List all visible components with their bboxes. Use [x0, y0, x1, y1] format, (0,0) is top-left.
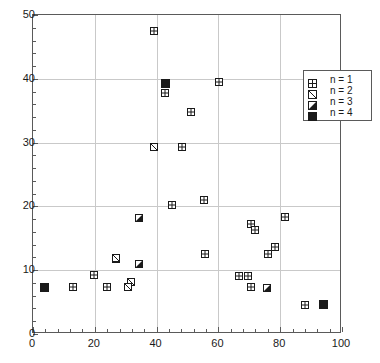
y-tick-label: 40: [0, 73, 35, 84]
y-tick-minor: [33, 257, 36, 258]
y-tick-label: 20: [0, 200, 35, 211]
data-point-square-half: [135, 260, 143, 268]
x-tick-label: 40: [136, 338, 176, 349]
x-tick-minor: [70, 329, 71, 332]
x-tick-minor: [231, 329, 232, 332]
data-point-square-plus: [235, 272, 243, 280]
x-tick-minor: [255, 329, 256, 332]
data-point-square-plus: [161, 89, 169, 97]
legend: n = 1n = 2n = 3n = 4: [303, 70, 372, 121]
x-tick-major: [280, 327, 281, 332]
data-point-square-filled: [40, 283, 49, 292]
data-point-square-plus: [90, 271, 98, 279]
y-tick-minor: [33, 66, 36, 67]
data-point-square-plus: [69, 283, 77, 291]
y-tick-minor: [33, 245, 36, 246]
y-tick-minor: [33, 130, 36, 131]
legend-label: n = 1: [330, 74, 353, 85]
data-point-square-plus: [301, 301, 309, 309]
x-tick-label: 20: [74, 338, 114, 349]
data-point-square-filled: [161, 79, 170, 88]
y-tick-minor: [33, 53, 36, 54]
gridline-vertical: [280, 15, 281, 332]
scatter-plot-figure: 01020304050 020406080100 n = 1n = 2n = 3…: [0, 0, 380, 363]
y-tick-minor: [33, 308, 36, 309]
x-tick-label: 100: [321, 338, 361, 349]
x-tick-minor: [58, 329, 59, 332]
y-tick-minor: [33, 296, 36, 297]
y-tick-label: 50: [0, 9, 35, 20]
y-tick-minor: [33, 181, 36, 182]
gridline-horizontal: [33, 79, 340, 80]
data-point-square-plus: [247, 283, 255, 291]
legend-swatch-square-filled-icon: [308, 107, 319, 118]
x-tick-minor: [206, 329, 207, 332]
x-tick-major: [95, 327, 96, 332]
data-point-square-diagonal: [150, 143, 158, 151]
legend-swatch-square-plus-icon: [308, 74, 319, 85]
x-tick-major: [157, 327, 158, 332]
x-tick-minor: [330, 329, 331, 332]
data-point-square-plus: [168, 201, 176, 209]
x-tick-minor: [181, 329, 182, 332]
y-tick-minor: [33, 168, 36, 169]
x-tick-minor: [169, 329, 170, 332]
legend-item-3[interactable]: n = 3: [308, 96, 367, 107]
y-tick-minor: [33, 219, 36, 220]
legend-item-4[interactable]: n = 4: [308, 107, 367, 118]
y-tick-minor: [33, 283, 36, 284]
legend-label: n = 3: [330, 96, 353, 107]
legend-label: n = 4: [330, 107, 353, 118]
gridline-horizontal: [33, 270, 340, 271]
data-point-square-plus: [201, 250, 209, 258]
gridline-vertical: [157, 15, 158, 332]
y-tick-minor: [33, 232, 36, 233]
x-tick-minor: [120, 329, 121, 332]
y-tick-minor: [33, 117, 36, 118]
y-tick-minor: [33, 28, 36, 29]
x-tick-label: 0: [12, 338, 52, 349]
y-tick-minor: [33, 321, 36, 322]
data-point-square-plus: [244, 272, 252, 280]
data-point-square-filled: [319, 300, 328, 309]
gridline-horizontal: [33, 206, 340, 207]
y-tick-label: 10: [0, 264, 35, 275]
data-point-square-plus: [251, 226, 259, 234]
x-tick-minor: [132, 329, 133, 332]
data-point-square-half: [135, 214, 143, 222]
data-point-square-plus: [103, 283, 111, 291]
x-tick-minor: [45, 329, 46, 332]
data-point-square-half: [263, 284, 271, 292]
x-tick-minor: [317, 329, 318, 332]
gridline-vertical: [95, 15, 96, 332]
x-tick-major: [218, 327, 219, 332]
legend-item-1[interactable]: n = 1: [308, 74, 367, 85]
y-tick-minor: [33, 155, 36, 156]
legend-item-2[interactable]: n = 2: [308, 85, 367, 96]
y-tick-minor: [33, 41, 36, 42]
data-point-square-plus: [187, 108, 195, 116]
data-point-square-plus: [281, 213, 289, 221]
x-tick-major: [342, 327, 343, 332]
legend-label: n = 2: [330, 85, 353, 96]
x-tick-minor: [82, 329, 83, 332]
x-tick-minor: [243, 329, 244, 332]
plot-area: [32, 14, 341, 333]
x-tick-minor: [144, 329, 145, 332]
x-tick-minor: [293, 329, 294, 332]
data-point-square-diagonal: [124, 283, 132, 291]
data-point-square-plus: [150, 27, 158, 35]
legend-swatch-square-diagonal-icon: [308, 85, 319, 96]
data-point-square-plus: [215, 78, 223, 86]
gridline-vertical: [218, 15, 219, 332]
y-tick-minor: [33, 194, 36, 195]
x-tick-minor: [268, 329, 269, 332]
y-tick-label: 30: [0, 137, 35, 148]
x-tick-label: 60: [197, 338, 237, 349]
data-point-square-plus: [264, 250, 272, 258]
data-point-square-plus: [200, 196, 208, 204]
x-tick-label: 80: [259, 338, 299, 349]
y-tick-minor: [33, 104, 36, 105]
x-tick-minor: [305, 329, 306, 332]
data-point-square-plus: [178, 143, 186, 151]
